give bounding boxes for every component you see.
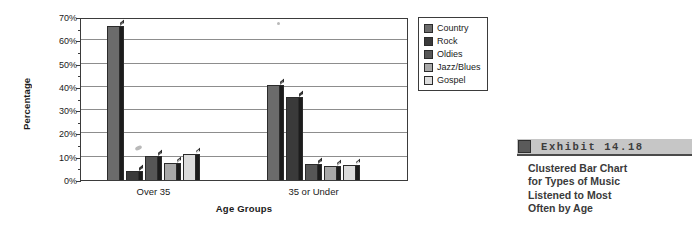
- bar-side-face: [280, 85, 284, 180]
- scan-speck-artifact: [277, 22, 280, 25]
- legend-label: Jazz/Blues: [437, 62, 481, 72]
- bar-side-face: [120, 26, 124, 180]
- y-axis-tick-label: 60%: [59, 36, 77, 46]
- bar-front-face: [324, 166, 337, 180]
- bar-side-face: [177, 163, 181, 180]
- y-axis-title: Percentage: [19, 56, 33, 152]
- x-axis-category-label: 35 or Under: [264, 186, 364, 197]
- exhibit-number-label: Exhibit 14.18: [541, 141, 644, 153]
- exhibit-caption-text: Clustered Bar Chartfor Types of MusicLis…: [517, 162, 692, 216]
- bar-chart-figure: Percentage 0%10%20%30%40%50%60%70% Over …: [0, 0, 470, 242]
- bar-front-face: [343, 165, 356, 180]
- y-axis-tick-label: 10%: [59, 153, 77, 163]
- bar-group: [107, 19, 202, 180]
- exhibit-caption-block: Exhibit 14.18 Clustered Bar Chartfor Typ…: [517, 139, 692, 216]
- bar-side-face: [318, 164, 322, 180]
- legend-swatch-icon: [424, 37, 433, 46]
- bar-front-face: [286, 97, 299, 180]
- bar-side-face: [196, 154, 200, 180]
- y-axis-major-tick: [76, 181, 81, 182]
- bar-side-face: [299, 97, 303, 180]
- bar-side-face: [139, 171, 143, 180]
- y-axis-tick-label: 20%: [59, 129, 77, 139]
- bar-front-face: [267, 85, 280, 180]
- legend-label: Rock: [437, 36, 458, 46]
- plot-area: [80, 18, 408, 181]
- legend-swatch-icon: [424, 76, 433, 85]
- legend-item: Oldies: [424, 48, 481, 60]
- bar-front-face: [183, 154, 196, 180]
- x-axis-title: Age Groups: [80, 203, 408, 214]
- y-axis-tick-label: 40%: [59, 83, 77, 93]
- exhibit-divider: [517, 154, 692, 156]
- legend-swatch-icon: [424, 24, 433, 33]
- exhibit-caption-line: Clustered Bar Chart: [528, 162, 692, 176]
- exhibit-header-bar: Exhibit 14.18: [517, 139, 692, 154]
- exhibit-caption-line: Listened to Most: [528, 189, 692, 203]
- legend-item: Country: [424, 22, 481, 34]
- legend-item: Gospel: [424, 74, 481, 86]
- x-axis-category-label: Over 35: [104, 186, 204, 197]
- y-axis-tick-label: 50%: [59, 60, 77, 70]
- exhibit-caption-line: Often by Age: [528, 202, 692, 216]
- bar-front-face: [305, 164, 318, 180]
- bar-front-face: [164, 163, 177, 180]
- bar-front-face: [126, 171, 139, 180]
- bar-side-face: [356, 165, 360, 180]
- chart-legend: CountryRockOldiesJazz/BluesGospel: [418, 17, 488, 91]
- legend-label: Oldies: [437, 49, 463, 59]
- y-axis-ticks: 0%10%20%30%40%50%60%70%: [44, 12, 80, 192]
- legend-label: Country: [437, 23, 469, 33]
- legend-label: Gospel: [437, 75, 466, 85]
- legend-swatch-icon: [424, 63, 433, 72]
- legend-item: Rock: [424, 35, 481, 47]
- bar-group: [267, 19, 362, 180]
- exhibit-caption-line: for Types of Music: [528, 175, 692, 189]
- bar-side-face: [337, 166, 341, 180]
- bar-front-face: [107, 26, 120, 180]
- y-axis-tick-label: 70%: [59, 13, 77, 23]
- legend-swatch-icon: [424, 50, 433, 59]
- exhibit-square-icon: [518, 140, 531, 153]
- bar-front-face: [145, 156, 158, 180]
- y-axis-tick-label: 30%: [59, 106, 77, 116]
- bar-side-face: [158, 156, 162, 180]
- legend-item: Jazz/Blues: [424, 61, 481, 73]
